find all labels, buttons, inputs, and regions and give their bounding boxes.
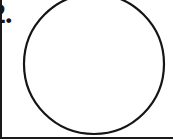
page-bottom-border-rule (0, 137, 173, 139)
scanned-page-fragment: 2. (0, 0, 173, 139)
circle-outline-figure (21, 0, 167, 137)
list-item-number-label: 2. (0, 0, 12, 28)
circle-outline-icon (24, 0, 164, 134)
